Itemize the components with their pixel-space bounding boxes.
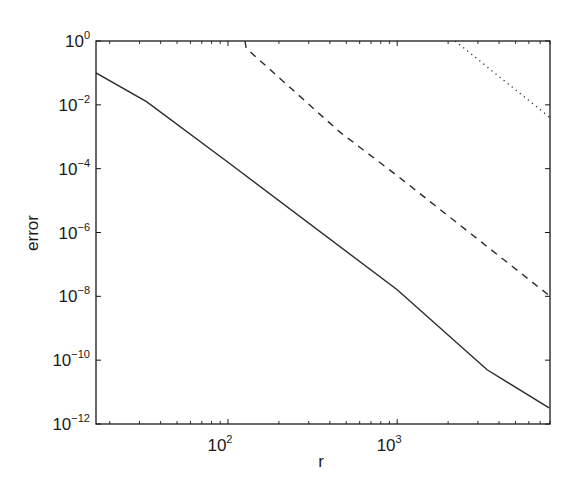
y-tick-labels: 10010−210−410−610−810−1010−12: [52, 29, 90, 434]
plot-lines: [96, 41, 549, 408]
axes-frame: [96, 41, 550, 424]
y-axis-label: error: [23, 215, 42, 251]
y-tick-label: 10−10: [52, 348, 90, 370]
series-solid-line: [96, 73, 549, 408]
y-tick-label: 10−2: [59, 93, 90, 115]
y-tick-label: 10−8: [59, 284, 90, 306]
series-dashed-line: [245, 41, 549, 295]
x-axis-label: r: [318, 452, 324, 471]
y-tick-label: 10−12: [52, 412, 90, 434]
y-tick-label: 10−4: [59, 157, 90, 179]
loglog-error-chart: 102103 10010−210−410−610−810−1010−12 r e…: [0, 0, 577, 497]
series-dotted-line: [455, 41, 549, 117]
x-tick-label: 103: [377, 433, 402, 455]
y-tick-label: 100: [65, 29, 90, 51]
major-ticks: [96, 41, 550, 424]
x-tick-labels: 102103: [207, 433, 401, 455]
x-tick-label: 102: [207, 433, 232, 455]
y-tick-label: 10−6: [59, 221, 90, 243]
